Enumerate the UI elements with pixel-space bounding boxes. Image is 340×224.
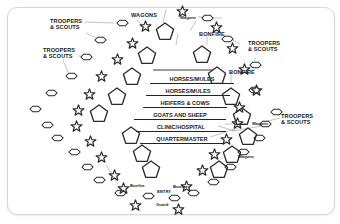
bonfire-label-bottom-left: Bonfire [130, 184, 145, 189]
zone-quartermaster: QUARTERMASTER [140, 136, 224, 144]
bonfire-label-bottom-right: Bonfire [173, 185, 188, 190]
zone-clinic-hospital: CLINIC/HOSPITAL [136, 124, 226, 132]
entry-label: ENTRY [157, 190, 171, 195]
posts [30, 15, 282, 201]
zone-goats-sheep: GOATS AND SHEEP [134, 112, 226, 120]
zone-horses-mules-2: HORSES/MULES [146, 88, 230, 96]
troopers-scouts-label-top-left: TROOPERS & SCOUTS [50, 18, 82, 31]
troopers-scouts-label-left: TROOPERS & SCOUTS [43, 47, 75, 60]
wagons-label-right-2: Wagons [238, 155, 254, 160]
troopers-scouts-label-top-right: TROOPERS & SCOUTS [248, 40, 280, 53]
wagons-label-right-1: Wagons [252, 122, 268, 127]
bonfire-label-right: BONFIRE [229, 69, 255, 75]
troopers-scouts-label-right: TROOPERS & SCOUTS [281, 113, 313, 126]
zone-heifers-cows: HEIFERS & COWS [143, 100, 227, 108]
zone-horses-mules-1: HORSES/MULES [150, 76, 234, 84]
wagons-label-top: WAGONS [131, 12, 157, 18]
wagons-label-top-right: Wagons [180, 16, 196, 21]
guard-label: Guard [156, 203, 168, 208]
bonfire-label-top: BONFIRE [199, 31, 225, 37]
